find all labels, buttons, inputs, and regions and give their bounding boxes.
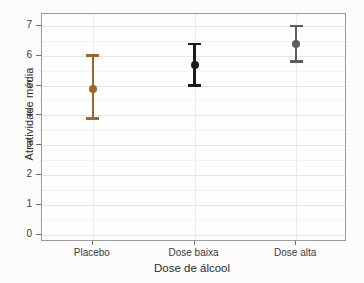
y-tick-label: 6 <box>4 50 32 60</box>
errorbar-cap-upper <box>290 25 303 28</box>
x-tick <box>92 241 93 245</box>
errorbar-cap-lower <box>86 117 99 120</box>
y-tick <box>36 25 41 26</box>
y-tick-label: 7 <box>4 20 32 30</box>
y-tick <box>36 174 41 175</box>
y-tick <box>36 85 41 86</box>
y-tick <box>36 114 41 115</box>
y-tick <box>36 144 41 145</box>
y-tick-label: 1 <box>4 199 32 209</box>
gridline-minor <box>42 190 345 191</box>
data-point <box>89 85 97 93</box>
errorbar-cap-upper <box>188 43 201 46</box>
y-tick-label: 0 <box>4 229 32 239</box>
errorbar-cap-upper <box>86 54 99 57</box>
y-tick <box>36 204 41 205</box>
gridline-minor <box>42 130 345 131</box>
gridline-major <box>42 145 345 146</box>
chart-figure: Atratividade média 01234567 PlaceboDose … <box>0 0 364 283</box>
gridline-vertical <box>93 14 94 240</box>
plot-area <box>41 13 346 241</box>
errorbar-cap-lower <box>290 60 303 63</box>
gridline-minor <box>42 100 345 101</box>
y-tick <box>36 234 41 235</box>
errorbar-cap-lower <box>188 84 201 87</box>
y-tick-label: 3 <box>4 139 32 149</box>
x-tick <box>194 241 195 245</box>
gridline-major <box>42 205 345 206</box>
y-tick-label: 4 <box>4 109 32 119</box>
y-tick-label: 2 <box>4 169 32 179</box>
x-tick-label: Dose alta <box>240 247 350 258</box>
gridline-major <box>42 175 345 176</box>
y-tick-label: 5 <box>4 80 32 90</box>
x-tick-label: Placebo <box>37 247 147 258</box>
x-axis-title: Dose de álcool <box>42 262 342 274</box>
x-tick <box>295 241 296 245</box>
data-point <box>292 40 300 48</box>
data-point <box>191 61 199 69</box>
gridline-minor <box>42 160 345 161</box>
gridline-major <box>42 235 345 236</box>
gridline-minor <box>42 220 345 221</box>
x-tick-label: Dose baixa <box>139 247 249 258</box>
y-tick <box>36 55 41 56</box>
